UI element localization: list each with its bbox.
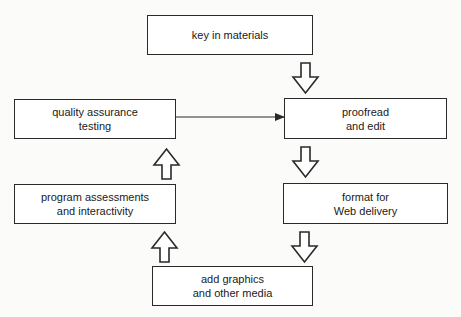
arrow-proofread-to-format [293,147,318,177]
arrow-program-to-qa [154,149,179,179]
node-format-for-web: format for Web delivery [283,183,448,224]
node-program-assessments: program assessments and interactivity [14,184,176,224]
node-label: format for [334,190,397,204]
node-label: and other media [193,286,273,300]
node-label: program assessments [41,190,149,204]
node-label: proofread [342,105,389,119]
node-label: Web delivery [334,204,397,218]
node-key-in-materials: key in materials [147,15,313,55]
node-add-graphics: add graphics and other media [152,266,313,306]
node-quality-assurance: quality assurance testing [14,99,176,139]
node-label: add graphics [193,272,273,286]
node-label: and edit [342,119,389,133]
node-proofread-and-edit: proofread and edit [284,98,447,139]
arrow-format-to-graphics [292,232,317,262]
node-label: and interactivity [41,204,149,218]
node-label: key in materials [192,28,268,42]
arrow-graphics-to-program [152,232,177,262]
node-label: quality assurance [52,105,138,119]
arrow-key-to-proofread [293,63,318,93]
node-label: testing [52,119,138,133]
